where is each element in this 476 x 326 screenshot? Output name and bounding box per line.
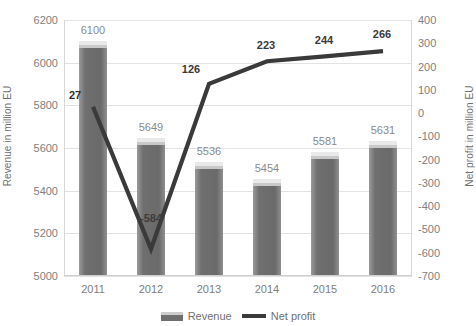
x-axis-baseline [64, 275, 412, 276]
x-axis-tick-label: 2013 [179, 284, 239, 295]
bar-data-label: 5631 [353, 125, 413, 136]
line-data-label: -584 [126, 213, 176, 224]
y-axis-left-tick-label: 5600 [18, 143, 58, 154]
bar-data-label: 5581 [295, 136, 355, 147]
x-axis-tick-label: 2016 [353, 284, 413, 295]
x-axis-tick-label: 2014 [237, 284, 297, 295]
y-axis-left-title-text: Revenue in million EU [2, 86, 13, 186]
line-swatch-icon [242, 314, 266, 318]
y-axis-left-tick-label: 6000 [18, 58, 58, 69]
y-axis-right-tick-label: -300 [418, 178, 458, 189]
y-axis-left-tick-label: 5200 [18, 228, 58, 239]
y-axis-left-tick-label: 5800 [18, 100, 58, 111]
y-axis-right-tick-label: -600 [418, 248, 458, 259]
y-axis-right-tick-label: 200 [418, 62, 458, 73]
y-axis-right-tick-label: -400 [418, 201, 458, 212]
bar-data-label: 5649 [121, 122, 181, 133]
line-data-label: 126 [166, 64, 216, 75]
y-axis-right-tick-label: 100 [418, 85, 458, 96]
gridline [64, 276, 412, 277]
bar-data-label: 5454 [237, 163, 297, 174]
bar-data-label: 5536 [179, 146, 239, 157]
x-axis-tick-label: 2015 [295, 284, 355, 295]
line-data-label: 27 [50, 90, 100, 101]
x-axis-tick-label: 2012 [121, 284, 181, 295]
y-axis-right-title: Net profit in million EU [462, 0, 476, 272]
plot-area: 610056495536545455815631 27-584126223244… [64, 20, 412, 276]
bar-data-label: 6100 [63, 25, 123, 36]
y-axis-left-tick-label: 5400 [18, 186, 58, 197]
y-axis-right-tick-label: 300 [418, 38, 458, 49]
x-axis-tick-label: 2011 [63, 284, 123, 295]
y-axis-left-tick-label: 5000 [18, 271, 58, 282]
chart-container: Revenue in million EU Net profit in mill… [0, 0, 476, 326]
y-axis-left-tick-label: 6200 [18, 15, 58, 26]
line-data-label: 223 [241, 40, 291, 51]
legend-label-revenue: Revenue [188, 310, 232, 322]
y-axis-right-title-text: Net profit in million EU [464, 85, 475, 186]
y-axis-right-tick-label: -500 [418, 224, 458, 235]
line-data-label: 244 [299, 35, 349, 46]
y-axis-right-tick-label: 0 [418, 108, 458, 119]
bar-swatch-icon [161, 312, 183, 321]
legend-item-revenue[interactable]: Revenue [161, 310, 232, 322]
y-axis-right-tick-label: -700 [418, 271, 458, 282]
y-axis-right-tick-label: 400 [418, 15, 458, 26]
y-axis-right-tick-label: -100 [418, 131, 458, 142]
legend-item-net-profit[interactable]: Net profit [242, 310, 316, 322]
y-axis-right-tick-label: -200 [418, 155, 458, 166]
line-data-label: 266 [357, 29, 407, 40]
legend-label-net-profit: Net profit [271, 310, 316, 322]
y-axis-left-title: Revenue in million EU [0, 0, 14, 272]
chart-legend: Revenue Net profit [0, 310, 476, 322]
